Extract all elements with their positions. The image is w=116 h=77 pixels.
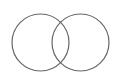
venn-circle-right <box>52 14 109 71</box>
venn-diagram <box>0 0 116 77</box>
